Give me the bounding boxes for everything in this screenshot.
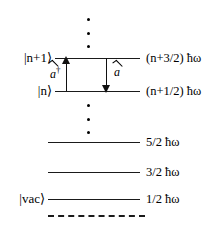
ellipsis-dot xyxy=(87,45,90,48)
ket-label-vacuum: |vac⟩ xyxy=(0,192,45,205)
ellipsis-dot xyxy=(87,131,90,134)
creation-arrow-shaft xyxy=(66,60,67,91)
energy-label-one: 3/2 ħω xyxy=(146,166,180,179)
ellipsis-dot xyxy=(87,32,90,35)
annihilation-arrow-head xyxy=(102,85,110,93)
ellipsis-lower xyxy=(86,104,90,134)
level-line-vacuum xyxy=(48,199,140,200)
annihilation-arrow-shaft xyxy=(106,58,107,87)
energy-label-vacuum: 1/2 ħω xyxy=(146,193,180,206)
ellipsis-dot xyxy=(87,104,90,107)
ellipsis-upper xyxy=(86,18,90,48)
energy-label-two: 5/2 ħω xyxy=(146,136,180,149)
level-line-two xyxy=(48,142,140,143)
ellipsis-dot xyxy=(87,18,90,21)
ket-label-n: |n⟩ xyxy=(4,84,52,97)
creation-arrow-head xyxy=(62,56,70,64)
energy-label-n: (n+1/2) ħω xyxy=(146,85,201,98)
baseline-dashed-line xyxy=(48,215,145,217)
ket-label-n-plus-1: |n+1⟩ xyxy=(4,51,52,64)
ellipsis-dot xyxy=(87,118,90,121)
energy-level-diagram: |n+1⟩ (n+3/2) ħω |n⟩ (n+1/2) ħω a† a 5/2… xyxy=(0,0,208,225)
level-line-one xyxy=(48,172,140,173)
level-line-n xyxy=(55,91,140,92)
energy-label-n-plus-1: (n+3/2) ħω xyxy=(146,52,201,65)
